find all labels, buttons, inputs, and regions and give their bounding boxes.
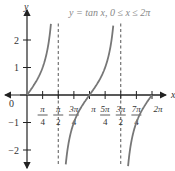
- y-tick-label-1: 1: [14, 62, 19, 73]
- x-tick-label-num-5: 3π: [115, 104, 126, 114]
- x-tick-label-den-1: 2: [56, 117, 61, 127]
- x-tick-label-den-4: 4: [103, 117, 108, 127]
- tan-curve-branch-0: [27, 24, 51, 95]
- x-tick-label-7: 2π: [153, 104, 163, 114]
- y-tick-label-2: −1: [8, 117, 19, 128]
- x-tick-label-num-4: 5π: [101, 104, 111, 114]
- origin-label: 0: [9, 98, 14, 109]
- tan-plot: xy0π4π23π4π5π43π27π42π21−1−2y = tan x, 0…: [0, 0, 175, 171]
- y-tick-label-0: 2: [14, 35, 19, 46]
- chart-title: y = tan x, 0 ≤ x ≤ 2π: [68, 7, 151, 18]
- x-tick-label-den-5: 2: [119, 117, 124, 127]
- x-tick-label-num-1: π: [56, 104, 61, 114]
- x-tick-label-den-0: 4: [40, 117, 45, 127]
- y-tick-label-3: −2: [8, 145, 19, 156]
- x-tick-label-3: π: [91, 104, 96, 114]
- x-tick-label-num-0: π: [40, 104, 45, 114]
- y-axis-label: y: [23, 1, 29, 12]
- x-axis-label: x: [170, 89, 175, 100]
